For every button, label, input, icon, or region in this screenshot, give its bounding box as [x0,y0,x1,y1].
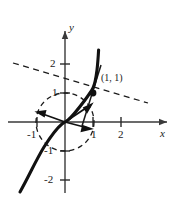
y-tick-label-neg1: -1 [44,145,53,156]
x-tick-label-neg1: -1 [27,129,36,140]
point-marker-1-1 [90,90,97,97]
vector-down-right-head [82,126,91,131]
point-annotation-label: (1, 1) [101,73,123,83]
normal-dashed-line [13,63,148,103]
x-axis-label: x [160,128,165,139]
plot-svg [0,0,176,199]
y-tick-label-2: 2 [50,58,56,69]
y-axis-arrowhead [62,31,68,39]
x-tick-label-2: 2 [118,129,124,140]
y-tick-label-neg2: -2 [44,174,53,185]
x-axis-arrowhead [159,119,167,125]
vector-up-right-head [84,104,92,112]
y-tick-label-1: 1 [52,87,58,98]
x-tick-label-1: 1 [91,129,97,140]
vector-up-left-head [37,111,45,116]
y-axis-label: y [69,22,74,33]
figure-canvas: x y -1 1 2 2 1 -1 -2 (1, 1) [0,0,176,199]
main-curve [20,50,99,192]
